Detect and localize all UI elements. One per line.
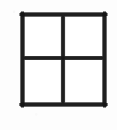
- quadrant-bottom-left[interactable]: [24, 60, 62, 103]
- quadrant-bottom-right[interactable]: [65, 60, 103, 103]
- figure-canvas: [0, 0, 117, 130]
- quadrant-top-left[interactable]: [24, 16, 62, 57]
- quadrant-top-right[interactable]: [65, 16, 103, 57]
